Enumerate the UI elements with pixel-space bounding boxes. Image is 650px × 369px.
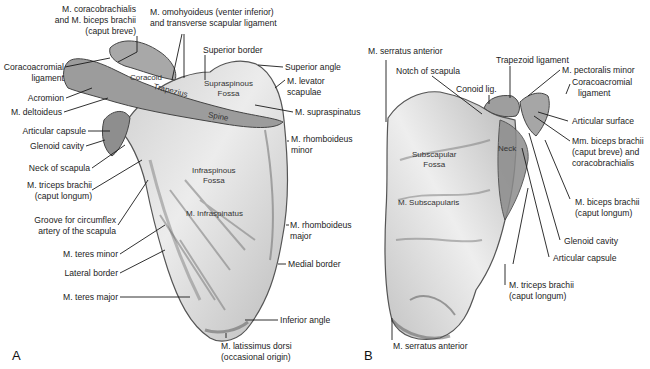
label-line: M. omohyoideus (venter inferior) [150, 7, 277, 18]
label-deltoideus: M. deltoideus [0, 107, 62, 118]
label-line: M. latissimus dorsi [221, 341, 292, 352]
label-omohyoideus: M. omohyoideus (venter inferior) and tra… [150, 7, 277, 29]
label-line: ligament [572, 88, 632, 99]
label-line: Fossa [204, 89, 253, 99]
panel-letter-a: A [12, 348, 21, 363]
label-line: M. rhomboideus [290, 220, 352, 231]
inbone-infraspinatus: M. Infraspinatus [186, 209, 243, 219]
label-latissimus-dorsi: M. latissimus dorsi (occasional origin) [221, 341, 292, 363]
label-superior-border: Superior border [203, 45, 263, 56]
label-articular-capsule-b: Articular capsule [553, 253, 617, 264]
panel-letter-b: B [364, 348, 373, 363]
label-line: (caput longum) [0, 191, 92, 202]
label-line: Supraspinous [204, 79, 253, 89]
label-glenoid-cavity-a: Glenoid cavity [0, 141, 84, 152]
label-line: (occasional origin) [221, 352, 292, 363]
label-line: Coracoacromial [572, 77, 632, 88]
label-coracoacromial-ligament-b: Coracoacromial ligament [572, 77, 632, 99]
scapula-diagram: M. coracobrachialis and M. biceps brachi… [0, 0, 650, 369]
label-rhomboideus-major: M. rhomboideus major [290, 220, 352, 242]
label-line: major [290, 231, 352, 242]
label-line: M. levator [287, 76, 325, 87]
label-groove-circumflex: Groove for circumflex artery of the scap… [0, 215, 116, 237]
label-articular-capsule-a: Articular capsule [0, 126, 86, 137]
label-teres-major: M. teres major [0, 292, 118, 303]
inbone-neck: Neck [498, 144, 516, 154]
inbone-subscapularis: M. Subscapularis [398, 198, 459, 208]
label-triceps-a: M. triceps brachii (caput longum) [0, 180, 92, 202]
label-line: M. biceps brachii [575, 197, 639, 208]
label-line: M. coracobrachialis [40, 4, 136, 15]
label-line: Groove for circumflex [0, 215, 116, 226]
label-line: minor [291, 145, 353, 156]
label-line: Subscapular [412, 150, 456, 160]
scapula-anterior [385, 92, 549, 340]
label-acromion: Acromion [0, 93, 64, 104]
label-triceps-b: M. triceps brachii (caput longum) [509, 280, 574, 302]
label-articular-surface: Articular surface [572, 116, 634, 127]
label-inferior-angle: Inferior angle [280, 315, 330, 326]
label-line: M. triceps brachii [509, 280, 574, 291]
label-line: coracobrachialis [572, 158, 644, 169]
label-neck-of-scapula: Neck of scapula [0, 163, 90, 174]
label-line: (caput longum) [575, 208, 639, 219]
label-medial-border: Medial border [288, 259, 341, 270]
inbone-infraspinous-fossa: Infraspinous Fossa [192, 166, 236, 186]
label-line: Mm. biceps brachii [572, 136, 644, 147]
inbone-supraspinous-fossa: Supraspinous Fossa [204, 79, 253, 99]
inbone-subscapular-fossa: Subscapular Fossa [412, 150, 456, 170]
label-supraspinatus: M. supraspinatus [295, 107, 360, 118]
label-line: and M. biceps brachii [40, 15, 136, 26]
label-lateral-border: Lateral border [0, 268, 118, 279]
label-rhomboideus-minor: M. rhomboideus minor [291, 134, 353, 156]
label-pectoralis-minor: M. pectoralis minor [562, 65, 635, 76]
label-line: Fossa [192, 176, 236, 186]
label-line: scapulae [287, 87, 325, 98]
label-line: Infraspinous [192, 166, 236, 176]
label-serratus-anterior-bottom: M. serratus anterior [393, 341, 468, 352]
label-teres-minor: M. teres minor [0, 249, 118, 260]
label-levator-scapulae: M. levator scapulae [287, 76, 325, 98]
label-line: M. triceps brachii [0, 180, 92, 191]
inbone-coracoid: Coracoid [130, 73, 162, 83]
label-line: (caput breve) [40, 26, 136, 37]
label-coracoacromial-ligament-a: Coracoacromial ligament [0, 62, 64, 84]
label-line: Fossa [412, 160, 456, 170]
label-serratus-anterior-top: M. serratus anterior [368, 46, 443, 57]
label-line: (caput breve) and [572, 147, 644, 158]
label-line: (caput longum) [509, 291, 574, 302]
label-coracobrachialis: M. coracobrachialis and M. biceps brachi… [40, 4, 136, 37]
label-line: artery of the scapula [0, 226, 116, 237]
label-line: ligament [0, 73, 64, 84]
label-conoid-lig: Conoid lig. [456, 84, 497, 95]
label-line: M. rhomboideus [291, 134, 353, 145]
label-superior-angle: Superior angle [285, 62, 341, 73]
label-notch-of-scapula: Notch of scapula [396, 66, 460, 77]
label-trapezoid-ligament: Trapezoid ligament [496, 55, 569, 66]
label-line: and transverse scapular ligament [150, 18, 277, 29]
label-glenoid-cavity-b: Glenoid cavity [564, 236, 618, 247]
label-line: Coracoacromial [0, 62, 64, 73]
label-biceps-caput-breve: Mm. biceps brachii (caput breve) and cor… [572, 136, 644, 169]
label-biceps-caput-longum: M. biceps brachii (caput longum) [575, 197, 639, 219]
